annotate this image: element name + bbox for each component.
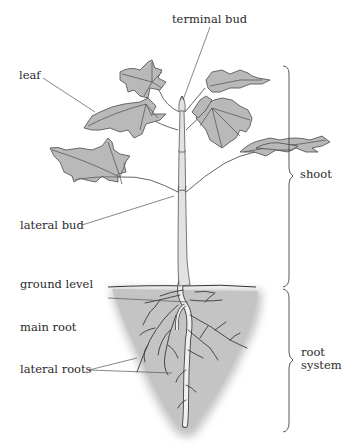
shoot-brace	[283, 66, 293, 287]
leaf-middle-left	[84, 98, 166, 138]
label-root-system-line1: root	[301, 345, 325, 359]
leaf-upper-right	[206, 70, 270, 92]
label-root-system-line2: system	[301, 358, 342, 372]
plant-diagram: terminal bud leaf lateral bud ground lev…	[0, 0, 357, 447]
label-ground-level: ground level	[20, 277, 93, 291]
leaves	[50, 60, 330, 184]
root-system-brace	[283, 289, 293, 432]
label-leaf: leaf	[19, 68, 41, 82]
leaf-upper-left	[120, 60, 166, 98]
label-shoot: shoot	[300, 167, 332, 181]
stem-drawing	[177, 96, 190, 286]
leaf-lower-left	[50, 138, 130, 182]
label-terminal-bud: terminal bud	[172, 12, 248, 26]
label-lateral-roots: lateral roots	[20, 362, 92, 376]
label-lateral-bud: lateral bud	[20, 218, 84, 232]
label-main-root: main root	[20, 320, 77, 334]
